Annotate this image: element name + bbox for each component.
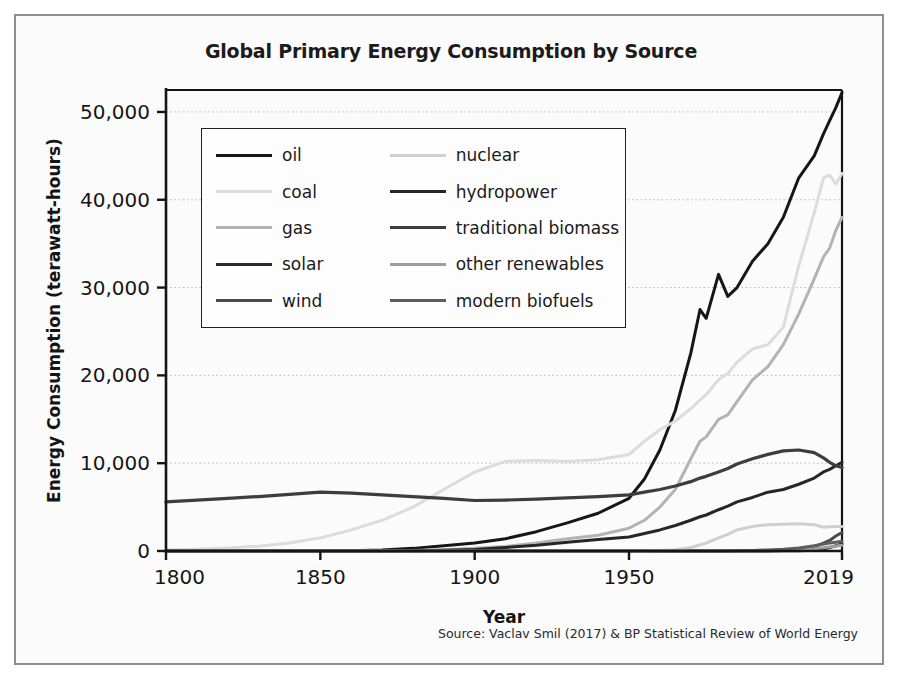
figure-frame: Global Primary Energy Consumption by Sou…	[14, 14, 884, 665]
legend-swatch-icon	[216, 154, 272, 157]
y-tick-label: 50,000	[80, 100, 150, 124]
x-tick-label: 1800	[154, 565, 205, 589]
y-tick-label: 10,000	[80, 451, 150, 475]
legend-item-coal[interactable]: coal	[216, 182, 390, 202]
legend-grid: oilnuclearcoalhydropowergastraditional b…	[202, 129, 625, 327]
legend-swatch-icon	[216, 226, 272, 229]
series-line-traditional-biomass	[166, 450, 842, 502]
chart-legend: oilnuclearcoalhydropowergastraditional b…	[201, 128, 626, 328]
legend-label: oil	[282, 145, 302, 165]
legend-swatch-icon	[390, 190, 446, 193]
x-tick-label: 1950	[604, 565, 655, 589]
legend-label: modern biofuels	[456, 291, 594, 311]
y-tick-label: 30,000	[80, 276, 150, 300]
legend-item-gas[interactable]: gas	[216, 218, 390, 238]
y-axis-title: Energy Consumption (terawatt-hours)	[44, 138, 64, 503]
legend-swatch-icon	[216, 299, 272, 302]
x-tick-label: 2019	[803, 565, 854, 589]
source-note: Source: Vaclav Smil (2017) & BP Statisti…	[438, 626, 858, 641]
legend-swatch-icon	[390, 154, 446, 157]
x-axis-title: Year	[482, 607, 526, 627]
legend-label: other renewables	[456, 254, 604, 274]
legend-item-hydropower[interactable]: hydropower	[390, 182, 619, 202]
legend-swatch-icon	[390, 263, 446, 266]
legend-item-traditional-biomass[interactable]: traditional biomass	[390, 218, 619, 238]
legend-swatch-icon	[216, 190, 272, 193]
legend-swatch-icon	[216, 263, 272, 266]
legend-label: solar	[282, 254, 323, 274]
plot-area: 010,00020,00030,00040,00050,000180018501…	[16, 16, 886, 667]
legend-label: coal	[282, 182, 317, 202]
legend-label: nuclear	[456, 145, 519, 165]
y-tick-label: 20,000	[80, 363, 150, 387]
legend-swatch-icon	[390, 226, 446, 229]
legend-label: hydropower	[456, 182, 557, 202]
legend-item-nuclear[interactable]: nuclear	[390, 145, 619, 165]
legend-item-solar[interactable]: solar	[216, 254, 390, 274]
legend-label: traditional biomass	[456, 218, 619, 238]
legend-swatch-icon	[390, 299, 446, 302]
y-tick-label: 40,000	[80, 188, 150, 212]
x-tick-label: 1900	[449, 565, 500, 589]
legend-item-modern-biofuels[interactable]: modern biofuels	[390, 291, 619, 311]
legend-item-wind[interactable]: wind	[216, 291, 390, 311]
x-tick-label: 1850	[295, 565, 346, 589]
y-tick-label: 0	[137, 539, 150, 563]
legend-label: gas	[282, 218, 312, 238]
legend-item-other-renewables[interactable]: other renewables	[390, 254, 619, 274]
line-chart: 010,00020,00030,00040,00050,000180018501…	[16, 16, 886, 667]
legend-item-oil[interactable]: oil	[216, 145, 390, 165]
legend-label: wind	[282, 291, 322, 311]
